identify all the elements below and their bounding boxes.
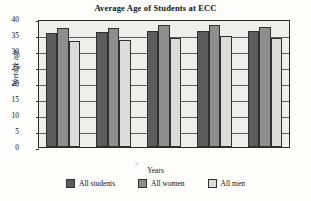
bar-group xyxy=(147,21,182,147)
bar xyxy=(96,32,108,147)
stray-mark: ˅ xyxy=(135,161,138,167)
y-tick-mark xyxy=(36,69,39,70)
bar-group xyxy=(96,21,131,147)
y-tick-label: 25 xyxy=(0,64,19,72)
bar xyxy=(46,33,58,147)
chart-legend: All studentsAll womenAll men xyxy=(0,179,311,188)
legend-swatch-icon xyxy=(208,179,217,188)
y-tick-label: 10 xyxy=(0,112,19,120)
bar xyxy=(158,25,170,147)
legend-swatch-icon xyxy=(138,179,147,188)
bar xyxy=(69,41,81,147)
legend-item[interactable]: All women xyxy=(138,179,185,188)
legend-item[interactable]: All men xyxy=(208,179,245,188)
bar xyxy=(170,38,182,147)
y-tick-label: 35 xyxy=(0,32,19,40)
y-tick-mark xyxy=(36,149,39,150)
bar xyxy=(57,28,69,147)
bar xyxy=(119,40,131,147)
bar xyxy=(147,31,159,147)
y-tick-mark xyxy=(36,21,39,22)
bar-chart: Average Age of Students at ECC Average a… xyxy=(0,0,311,201)
y-tick-label: 15 xyxy=(0,96,19,104)
y-tick-label: 5 xyxy=(0,128,19,136)
y-tick-mark xyxy=(36,53,39,54)
bar-group xyxy=(248,21,283,147)
bar xyxy=(209,25,221,147)
legend-label: All women xyxy=(151,179,185,188)
y-tick-mark xyxy=(36,101,39,102)
chart-title: Average Age of Students at ECC xyxy=(0,3,311,13)
bar-group xyxy=(197,21,232,147)
legend-item[interactable]: All students xyxy=(66,179,115,188)
plot-area xyxy=(38,20,290,148)
legend-label: All students xyxy=(79,179,115,188)
y-tick-mark xyxy=(36,85,39,86)
bar-group xyxy=(46,21,81,147)
y-tick-label: 30 xyxy=(0,48,19,56)
y-tick-label: 20 xyxy=(0,80,19,88)
y-tick-mark xyxy=(36,37,39,38)
bar xyxy=(197,31,209,147)
bar xyxy=(220,36,232,147)
bar xyxy=(108,28,120,147)
y-tick-mark xyxy=(36,117,39,118)
legend-label: All men xyxy=(221,179,245,188)
x-axis-title: Years xyxy=(0,166,311,175)
y-tick-label: 40 xyxy=(0,16,19,24)
bar xyxy=(271,38,283,147)
legend-swatch-icon xyxy=(66,179,75,188)
y-tick-label: 0 xyxy=(0,144,19,152)
bar xyxy=(259,27,271,147)
bar xyxy=(248,31,260,147)
